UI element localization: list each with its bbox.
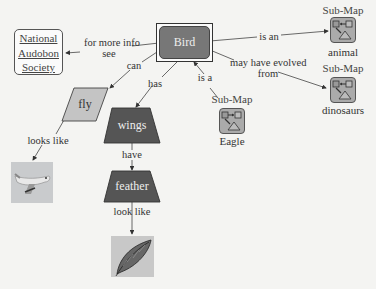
nas-line-2: Audobon bbox=[15, 46, 62, 61]
edge-label-look-like: look like bbox=[113, 206, 151, 217]
edge-label-have: have bbox=[121, 149, 143, 160]
submap-dinosaurs-title: Sub-Map bbox=[318, 62, 368, 74]
edge-label-may-have-evolved: may have evolved from bbox=[230, 57, 306, 79]
node-bird-inner: Bird bbox=[159, 26, 210, 59]
submap-eagle-icon[interactable] bbox=[219, 108, 245, 134]
edge-label-line: for more info bbox=[84, 37, 134, 48]
submap-animal-label: animal bbox=[313, 46, 373, 58]
edge-label-has: has bbox=[146, 78, 164, 89]
edge-label-line: may have evolved bbox=[230, 57, 306, 68]
submap-eagle-label: Eagle bbox=[202, 135, 262, 147]
edge-label-line: see bbox=[84, 48, 134, 59]
node-national-audobon-society[interactable]: National Audobon Society bbox=[14, 29, 63, 75]
submap-dinosaurs-label: dinosaurs bbox=[313, 104, 373, 116]
edge-bird-nas-tail bbox=[66, 52, 80, 53]
submap-eagle-title: Sub-Map bbox=[207, 93, 257, 105]
edge-label-for-more-info: for more info see bbox=[84, 37, 134, 59]
submap-icon bbox=[331, 78, 355, 102]
node-bird-label: Bird bbox=[174, 35, 195, 50]
node-bird[interactable]: Bird bbox=[156, 23, 213, 62]
edge-label-can: can bbox=[125, 60, 143, 71]
node-feather[interactable]: feather bbox=[104, 171, 160, 202]
edge-label-line: from bbox=[230, 68, 306, 79]
nas-line-3: Society bbox=[15, 60, 62, 75]
submap-icon bbox=[331, 18, 355, 42]
airplane-icon bbox=[11, 162, 53, 203]
node-feather-label: feather bbox=[115, 179, 148, 194]
node-feather-image[interactable] bbox=[111, 236, 154, 277]
edge-label-is-an: is an bbox=[257, 31, 281, 42]
submap-icon bbox=[220, 109, 244, 133]
submap-animal-title: Sub-Map bbox=[318, 4, 368, 16]
node-wings-label: wings bbox=[118, 118, 147, 133]
node-airplane-image[interactable] bbox=[11, 162, 53, 203]
feather-icon bbox=[111, 236, 154, 277]
edge-label-is-a: is a bbox=[196, 72, 214, 83]
nas-line-1: National bbox=[15, 31, 62, 46]
edge-label-looks-like: looks like bbox=[26, 135, 70, 146]
node-fly[interactable]: fly bbox=[68, 88, 102, 121]
node-fly-label: fly bbox=[78, 97, 91, 112]
submap-dinosaurs-icon[interactable] bbox=[330, 77, 356, 103]
node-wings[interactable]: wings bbox=[104, 108, 160, 143]
submap-animal-icon[interactable] bbox=[330, 17, 356, 43]
